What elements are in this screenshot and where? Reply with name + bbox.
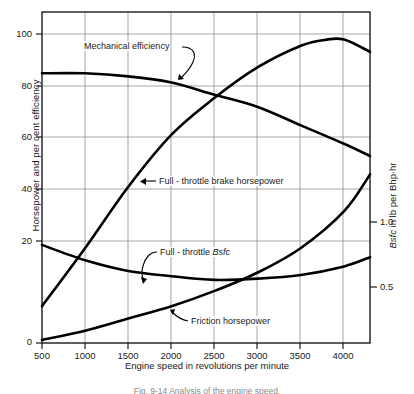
ytick-label-left-60: 60	[2, 131, 32, 142]
ytick-label-left-0: 0	[2, 336, 32, 347]
ticks-bottom	[42, 343, 343, 349]
ytick-label-left-80: 80	[2, 80, 32, 91]
ytick-label-left-100: 100	[2, 28, 32, 39]
annotation-bsfc-italic: Bsfc	[213, 247, 231, 257]
ytick-label-left-20: 20	[2, 235, 32, 246]
figure-caption: Fig. 9-14 Analysis of the engine speed.	[42, 386, 372, 394]
figure-container: 100 80 60 40 20 0 1.0 0.5 500 1000 1500 …	[0, 0, 414, 394]
annotation-mechanical-efficiency: Mechanical efficiency	[83, 41, 170, 51]
y-axis-label-right-italic: Bsfc	[387, 230, 398, 248]
y-axis-label-left: Horsepower and per cent efficiency	[30, 36, 41, 276]
y-axis-label-right-rest: in lb per Bhp·hr	[387, 162, 398, 230]
annotation-bsfc-prefix: Full - throttle	[160, 247, 213, 257]
annotation-friction-horsepower: Friction horsepower	[190, 316, 271, 326]
annotation-bsfc: Full - throttle Bsfc	[159, 247, 231, 257]
chart-svg	[0, 0, 414, 394]
x-axis-label: Engine speed in revolutions per minute	[42, 360, 372, 371]
ytick-label-left-40: 40	[2, 183, 32, 194]
y-axis-label-right: Bsfc in lb per Bhp·hr	[387, 111, 398, 301]
annotation-brake-horsepower: Full - throttle brake horsepower	[158, 176, 285, 186]
ticks-right	[370, 222, 377, 287]
